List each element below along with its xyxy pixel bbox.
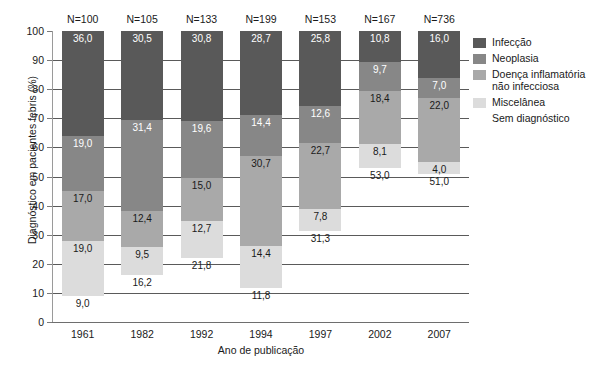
bar-segment-value-label: 28,7 (240, 34, 282, 44)
bar-segment-value-label: 9,5 (121, 250, 163, 260)
bar-column: N=10036,019,017,019,09,0 (62, 31, 104, 322)
stacked-bar-chart: Diagnóstico em pacientes febris (%) 0102… (0, 0, 601, 365)
bar-segment-value-label: 30,8 (181, 34, 223, 44)
legend-label: Miscelânea (492, 96, 545, 108)
x-axis-tick-label: 1994 (234, 328, 288, 340)
x-axis-tick-label: 1961 (56, 328, 110, 340)
y-axis-tick-label: 80 (0, 83, 44, 95)
bar-column: N=10530,531,412,49,516,2 (121, 31, 163, 322)
group-count-label: N=153 (293, 13, 347, 25)
chart-legend: InfecçãoNeoplasiaDoença inflamatória não… (473, 36, 601, 128)
bar-segment-value-label: 12,6 (299, 109, 341, 119)
bar-segment-value-label: 31,3 (299, 234, 341, 244)
legend-swatch-icon (473, 38, 486, 48)
y-axis-tick-label: 100 (0, 25, 44, 37)
bar-segment (62, 31, 104, 136)
group-count-label: N=133 (175, 13, 229, 25)
legend-swatch-icon (473, 70, 486, 80)
bar-segment-value-label: 22,0 (418, 101, 460, 111)
x-axis-tick-label: 2002 (353, 328, 407, 340)
legend-label: Doença inflamatória não infecciosa (492, 68, 585, 92)
bar-segment-value-label: 9,7 (359, 65, 401, 75)
bar-segment-value-label: 19,0 (62, 244, 104, 254)
x-axis-line (52, 322, 469, 323)
bar-segment-value-label: 22,7 (299, 146, 341, 156)
group-count-label: N=736 (412, 13, 466, 25)
bar-segment-value-label: 30,7 (240, 159, 282, 169)
legend-item[interactable]: Neoplasia (473, 52, 601, 64)
bar-column: N=13330,819,615,012,721,8 (181, 31, 223, 322)
y-axis-tick-label: 40 (0, 200, 44, 212)
bar-segment-value-label: 51,0 (418, 177, 460, 187)
legend-item[interactable]: Miscelânea (473, 96, 601, 108)
bar-column: N=19928,714,430,714,411,8 (240, 31, 282, 322)
bar-column: N=73616,07,022,04,051,0 (418, 31, 460, 322)
group-count-label: N=199 (234, 13, 288, 25)
bar-segment-value-label: 16,0 (418, 34, 460, 44)
x-axis-tick-label: 1982 (115, 328, 169, 340)
legend-label: Sem diagnóstico (492, 112, 570, 124)
bar-segment-value-label: 19,6 (181, 124, 223, 134)
x-axis-tick-label: 1992 (175, 328, 229, 340)
bar-segment-value-label: 12,4 (121, 214, 163, 224)
y-axis-tick-label: 10 (0, 287, 44, 299)
bar-segment-value-label: 10,8 (359, 34, 401, 44)
bar-segment (240, 156, 282, 245)
bar-segment-value-label: 12,7 (181, 224, 223, 234)
group-count-label: N=167 (353, 13, 407, 25)
x-axis-tick-label: 2007 (412, 328, 466, 340)
bar-segment-value-label: 16,2 (121, 278, 163, 288)
plot-area: N=10036,019,017,019,09,0N=10530,531,412,… (53, 31, 469, 322)
bar-segment-value-label: 7,0 (418, 81, 460, 91)
y-axis-title: Diagnóstico em pacientes febris (%) (26, 40, 38, 280)
legend-swatch-icon (473, 114, 486, 124)
bar-segment-value-label: 25,8 (299, 34, 341, 44)
legend-label: Neoplasia (492, 52, 539, 64)
legend-item[interactable]: Doença inflamatória não infecciosa (473, 68, 601, 92)
bar-segment-value-label: 7,8 (299, 212, 341, 222)
bar-segment-value-label: 21,8 (181, 261, 223, 271)
y-axis-tick-label: 20 (0, 258, 44, 270)
legend-swatch-icon (473, 98, 486, 108)
bar-segment-value-label: 8,1 (359, 147, 401, 157)
bar-segment-value-label: 9,0 (62, 299, 104, 309)
bar-segment-value-label: 14,4 (240, 118, 282, 128)
bar-segment-value-label: 14,4 (240, 249, 282, 259)
bar-segment-value-label: 15,0 (181, 181, 223, 191)
bar-segment-value-label: 36,0 (62, 34, 104, 44)
y-axis-tick-label: 90 (0, 54, 44, 66)
bar-segment (121, 120, 163, 211)
legend-item[interactable]: Sem diagnóstico (473, 112, 601, 124)
bar-segment-value-label: 53,0 (359, 171, 401, 181)
legend-item[interactable]: Infecção (473, 36, 601, 48)
bar-segment (181, 31, 223, 121)
y-axis-tick-label: 50 (0, 171, 44, 183)
group-count-label: N=100 (56, 13, 110, 25)
y-axis-tick-label: 70 (0, 112, 44, 124)
bar-segment-value-label: 11,8 (240, 291, 282, 301)
legend-swatch-icon (473, 54, 486, 64)
bar-segment-value-label: 19,0 (62, 139, 104, 149)
legend-label: Infecção (492, 36, 532, 48)
x-axis-title: Ano de publicação (53, 344, 469, 356)
bar-segment-value-label: 30,5 (121, 34, 163, 44)
bar-segment-value-label: 31,4 (121, 123, 163, 133)
y-axis-tick-label: 0 (0, 316, 44, 328)
bar-column: N=15325,812,622,77,831,3 (299, 31, 341, 322)
x-axis-tick-label: 1997 (293, 328, 347, 340)
bar-segment-value-label: 18,4 (359, 94, 401, 104)
bar-segment-value-label: 17,0 (62, 194, 104, 204)
bar-column: N=16710,89,718,48,153,0 (359, 31, 401, 322)
group-count-label: N=105 (115, 13, 169, 25)
y-axis-tick-label: 60 (0, 141, 44, 153)
bar-segment-value-label: 4,0 (418, 165, 460, 175)
bar-segment (121, 31, 163, 120)
y-axis-tick-label: 30 (0, 229, 44, 241)
